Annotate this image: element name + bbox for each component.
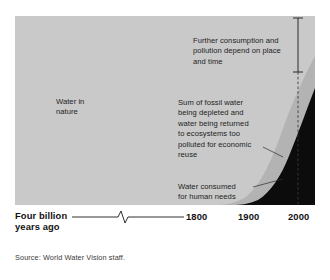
x-tick-label-2000: 2000	[288, 211, 309, 222]
axis-break-zigzag-icon	[118, 211, 128, 223]
annotation-further-consumption: Further consumption and pollution depend…	[193, 36, 305, 67]
x-tick-label-1800: 1800	[186, 211, 207, 222]
annotation-water-consumed: Water consumed for human needs	[178, 182, 274, 203]
annotation-water-in-nature: Water in nature	[56, 97, 126, 118]
chart-plot-area: Water in nature Further consumption and …	[15, 16, 315, 205]
axis-label-four-billion-years-ago: Four billion years ago	[15, 211, 67, 233]
x-tick-label-1900: 1900	[238, 211, 259, 222]
right-bracket-group	[290, 12, 312, 210]
source-note: Source: World Water Vision staff.	[15, 253, 125, 262]
figure-container: Water in nature Further consumption and …	[0, 0, 330, 280]
annotation-fossil-water: Sum of fossil water being depleted and w…	[178, 98, 276, 160]
